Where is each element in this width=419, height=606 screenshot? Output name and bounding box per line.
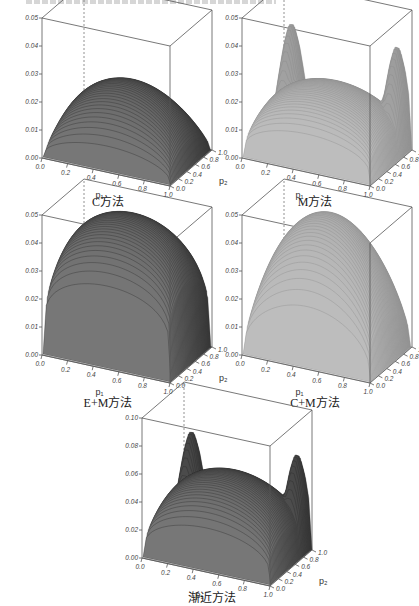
svg-text:0.0: 0.0 <box>176 185 185 192</box>
svg-text:1.0: 1.0 <box>263 591 272 598</box>
svg-text:0.05: 0.05 <box>225 14 238 21</box>
svg-text:0.8: 0.8 <box>410 156 419 163</box>
svg-text:0.02: 0.02 <box>225 295 238 302</box>
svg-text:0.2: 0.2 <box>184 178 193 185</box>
svg-text:0.03: 0.03 <box>225 267 238 274</box>
svg-text:0.6: 0.6 <box>401 163 410 170</box>
chart-c-method: 0.000.010.020.030.040.050.00.20.40.60.81… <box>10 8 210 208</box>
svg-text:0.00: 0.00 <box>225 154 238 161</box>
svg-text:0.01: 0.01 <box>25 126 38 133</box>
svg-text:0.00: 0.00 <box>25 351 38 358</box>
svg-text:0.6: 0.6 <box>112 377 121 384</box>
svg-text:0.8: 0.8 <box>338 382 347 389</box>
svg-text:0.0: 0.0 <box>376 185 385 192</box>
svg-text:0.02: 0.02 <box>25 295 38 302</box>
svg-text:0.01: 0.01 <box>25 323 38 330</box>
svg-text:0.0: 0.0 <box>276 585 285 592</box>
chart-cm-method: 0.000.010.020.030.040.050.00.20.40.60.81… <box>210 205 410 405</box>
svg-text:0.04: 0.04 <box>25 42 38 49</box>
svg-text:0.4: 0.4 <box>193 368 202 375</box>
svg-text:0.05: 0.05 <box>25 14 38 21</box>
svg-text:0.6: 0.6 <box>401 360 410 367</box>
svg-text:0.6: 0.6 <box>301 563 310 570</box>
svg-text:0.0: 0.0 <box>35 163 44 170</box>
svg-text:0.0: 0.0 <box>235 360 244 367</box>
svg-text:0.00: 0.00 <box>125 554 138 561</box>
svg-text:0.00: 0.00 <box>25 154 38 161</box>
chart-m-method: 0.000.010.020.030.040.050.00.20.40.60.81… <box>210 8 410 208</box>
svg-text:0.05: 0.05 <box>25 211 38 218</box>
chart-asymptotic-method: 0.000.020.040.060.080.100.00.20.40.60.81… <box>110 408 310 606</box>
svg-text:0.4: 0.4 <box>193 171 202 178</box>
svg-text:0.03: 0.03 <box>25 70 38 77</box>
svg-text:0.05: 0.05 <box>225 211 238 218</box>
svg-text:0.06: 0.06 <box>125 470 138 477</box>
svg-text:0.2: 0.2 <box>184 375 193 382</box>
svg-text:0.02: 0.02 <box>25 98 38 105</box>
svg-text:0.2: 0.2 <box>384 375 393 382</box>
svg-text:0.01: 0.01 <box>225 323 238 330</box>
svg-text:0.4: 0.4 <box>393 368 402 375</box>
svg-text:0.2: 0.2 <box>61 169 70 176</box>
svg-text:1.0: 1.0 <box>318 549 327 556</box>
svg-text:0.4: 0.4 <box>187 574 196 581</box>
svg-text:0.2: 0.2 <box>261 366 270 373</box>
svg-text:0.2: 0.2 <box>161 569 170 576</box>
svg-text:0.01: 0.01 <box>225 126 238 133</box>
svg-text:0.4: 0.4 <box>87 371 96 378</box>
svg-text:0.2: 0.2 <box>284 578 293 585</box>
svg-text:0.03: 0.03 <box>25 267 38 274</box>
svg-text:0.04: 0.04 <box>225 239 238 246</box>
svg-text:0.2: 0.2 <box>261 169 270 176</box>
svg-text:0.8: 0.8 <box>138 382 147 389</box>
svg-text:p₂: p₂ <box>319 576 328 586</box>
svg-text:0.00: 0.00 <box>225 351 238 358</box>
svg-text:0.8: 0.8 <box>310 556 319 563</box>
svg-text:0.08: 0.08 <box>125 442 138 449</box>
svg-text:0.4: 0.4 <box>293 571 302 578</box>
svg-text:0.0: 0.0 <box>35 360 44 367</box>
svg-text:0.6: 0.6 <box>212 580 221 587</box>
svg-text:0.4: 0.4 <box>287 371 296 378</box>
svg-text:0.04: 0.04 <box>125 498 138 505</box>
svg-text:0.8: 0.8 <box>410 353 419 360</box>
svg-text:0.0: 0.0 <box>235 163 244 170</box>
svg-text:0.2: 0.2 <box>61 366 70 373</box>
svg-text:0.04: 0.04 <box>225 42 238 49</box>
svg-text:1.0: 1.0 <box>163 388 172 395</box>
chart-em-method: 0.000.010.020.030.040.050.00.20.40.60.81… <box>10 205 210 405</box>
caption-asymptotic-method: 渐近方法 <box>162 588 262 606</box>
svg-text:0.02: 0.02 <box>225 98 238 105</box>
svg-text:0.0: 0.0 <box>376 382 385 389</box>
svg-text:0.4: 0.4 <box>393 171 402 178</box>
svg-text:0.0: 0.0 <box>135 563 144 570</box>
svg-text:0.02: 0.02 <box>125 526 138 533</box>
svg-text:0.10: 0.10 <box>125 414 138 421</box>
svg-text:0.04: 0.04 <box>25 239 38 246</box>
svg-text:0.03: 0.03 <box>225 70 238 77</box>
svg-text:0.2: 0.2 <box>384 178 393 185</box>
svg-text:0.6: 0.6 <box>312 377 321 384</box>
clipped-text-line <box>26 0 276 4</box>
